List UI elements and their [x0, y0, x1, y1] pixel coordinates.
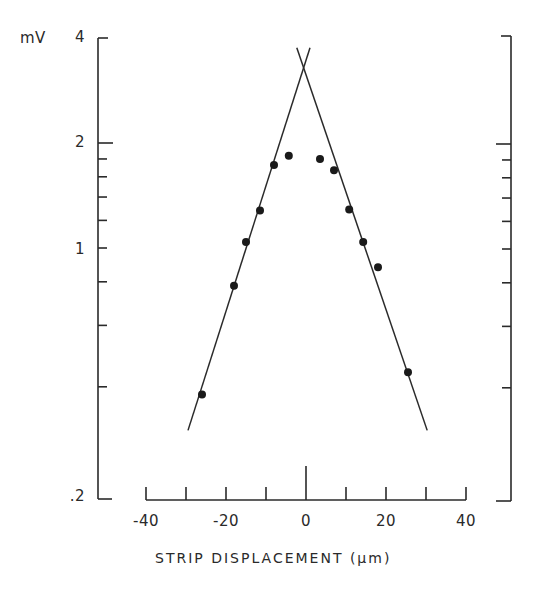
y-axis-unit-label: mV [20, 29, 46, 47]
data-point [404, 368, 412, 376]
data-point [359, 238, 367, 246]
left-fit-line [188, 48, 310, 431]
y-tick-label-0-2: .2 [55, 487, 85, 505]
x-tick-label-0: 0 [281, 512, 331, 530]
x-tick-label-m20: -20 [201, 512, 251, 530]
data-point [270, 161, 278, 169]
x-axis-title: STRIP DISPLACEMENT (μm) [155, 550, 391, 566]
data-point [345, 205, 353, 213]
y-tick-label-1: 1 [55, 240, 85, 258]
data-point [256, 207, 264, 215]
data-point [285, 152, 293, 160]
y-tick-label-4: 4 [55, 28, 85, 46]
data-point [330, 166, 338, 174]
data-point [316, 155, 324, 163]
data-point [198, 391, 206, 399]
data-point [242, 238, 250, 246]
x-tick-label-40: 40 [441, 512, 491, 530]
x-tick-label-m40: -40 [121, 512, 171, 530]
x-tick-label-20: 20 [361, 512, 411, 530]
data-point [230, 282, 238, 290]
y-tick-label-2: 2 [55, 133, 85, 151]
data-point [374, 263, 382, 271]
